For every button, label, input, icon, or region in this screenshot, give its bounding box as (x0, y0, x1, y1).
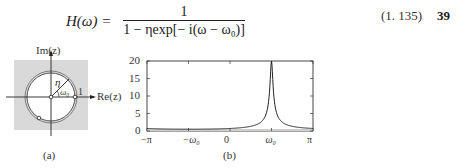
figure-b-caption: (b) (223, 149, 236, 161)
x-tick-label: π (307, 134, 312, 145)
y-tick-label: 10 (129, 89, 140, 101)
chart-plot-area (147, 61, 313, 131)
response-curve (147, 61, 313, 129)
x-tick-label: ω₀ (266, 134, 277, 145)
y-tick-label: 20 (129, 54, 140, 66)
y-tick-label: 5 (135, 107, 141, 119)
y-tick-label: 15 (129, 72, 140, 84)
y-tick-label: 0 (135, 124, 141, 136)
x-tick-label: −ω₀ (183, 134, 200, 145)
figure-b-chart (0, 0, 458, 168)
x-tick-label: 0 (224, 134, 229, 145)
x-tick-label: −π (141, 134, 152, 145)
